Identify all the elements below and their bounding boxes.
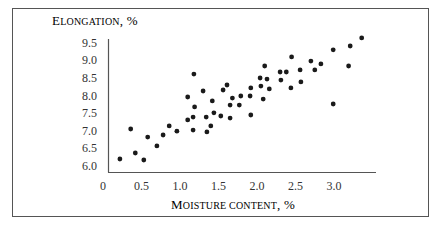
data-point — [145, 135, 150, 140]
data-point — [191, 115, 196, 120]
x-tick-label: 3.0 — [327, 179, 342, 193]
data-point — [259, 84, 264, 89]
data-point — [278, 70, 283, 75]
data-point — [289, 86, 294, 91]
data-point — [261, 97, 266, 102]
data-point — [155, 144, 160, 149]
y-tick-label: 9.5 — [82, 36, 97, 50]
x-tick-label: 1.5 — [211, 179, 226, 193]
data-point — [262, 64, 267, 69]
data-point — [204, 115, 209, 120]
x-tick-label: 0.5 — [134, 179, 149, 193]
data-point — [267, 87, 272, 92]
data-point — [221, 88, 226, 93]
data-point — [289, 55, 294, 60]
data-point — [201, 89, 206, 94]
data-point — [265, 77, 270, 82]
data-point — [175, 129, 180, 134]
data-point — [299, 80, 304, 85]
data-point — [258, 76, 263, 81]
data-point — [192, 105, 197, 110]
data-point — [238, 94, 243, 99]
data-point — [225, 83, 230, 88]
data-point — [230, 96, 235, 101]
y-axis-title: ELONGATION, % — [52, 13, 138, 28]
x-tick-label: 0 — [100, 179, 106, 193]
data-point — [331, 102, 336, 107]
data-point — [279, 78, 284, 83]
x-tick-label: 2.5 — [288, 179, 303, 193]
data-point — [346, 64, 351, 69]
y-tick-label: 6.0 — [82, 159, 97, 173]
x-axis-title: MOISTURE CONTENT, % — [171, 197, 295, 212]
data-point — [185, 118, 190, 123]
data-point — [210, 99, 215, 104]
data-point — [141, 158, 146, 163]
data-point — [192, 72, 197, 77]
data-point — [212, 110, 217, 115]
data-point — [319, 62, 324, 67]
data-point — [161, 133, 166, 138]
x-tick-label: 2.0 — [250, 179, 265, 193]
data-points — [118, 36, 365, 163]
data-point — [191, 128, 196, 133]
y-tick-label: 7.0 — [82, 124, 97, 138]
y-tick-label: 6.5 — [82, 141, 97, 155]
y-tick-label: 7.5 — [82, 106, 97, 120]
data-point — [208, 124, 213, 129]
data-point — [284, 70, 289, 75]
y-tick-labels: 9.59.08.58.07.57.06.56.0 — [82, 36, 97, 173]
y-tick-label: 9.0 — [82, 53, 97, 67]
data-point — [359, 36, 364, 41]
data-point — [133, 151, 138, 156]
data-point — [228, 116, 233, 121]
data-point — [228, 103, 233, 108]
data-point — [312, 68, 317, 73]
data-point — [248, 86, 253, 91]
x-tick-label: 1.0 — [173, 179, 188, 193]
data-point — [218, 114, 223, 119]
x-tick-labels: 00.51.01.52.02.53.0 — [100, 179, 342, 193]
data-point — [309, 59, 314, 64]
data-point — [248, 113, 253, 118]
y-tick-label: 8.0 — [82, 89, 97, 103]
data-point — [248, 94, 253, 99]
data-point — [331, 47, 336, 52]
data-point — [237, 103, 242, 108]
data-point — [118, 157, 123, 162]
data-point — [205, 130, 210, 135]
data-point — [167, 124, 172, 129]
y-tick-label: 8.5 — [82, 71, 97, 85]
data-point — [128, 127, 133, 132]
data-point — [298, 68, 303, 73]
data-point — [348, 44, 353, 49]
scatter-chart: ELONGATION, % 9.59.08.58.07.57.06.56.0 0… — [0, 0, 443, 227]
data-point — [185, 95, 190, 100]
